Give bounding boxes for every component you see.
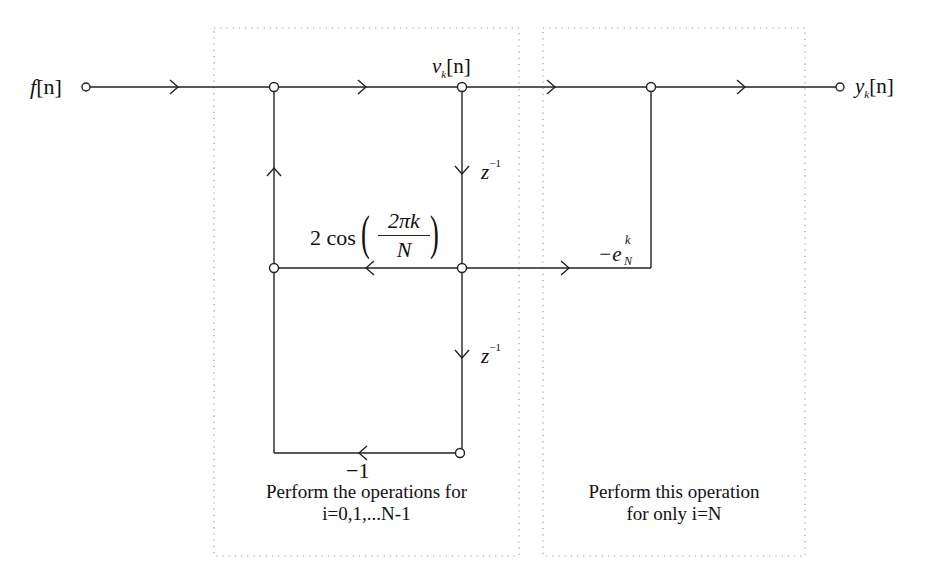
node-mid-right <box>458 264 467 273</box>
right-region-caption: Perform this operation for only i=N <box>543 481 805 525</box>
output-label-y: y <box>855 74 864 98</box>
sum-node-output <box>647 83 656 92</box>
output-label: yk[n] <box>855 74 894 100</box>
coef-prefix: 2 cos <box>310 225 356 251</box>
out-coef-sub: N <box>624 254 632 269</box>
delay1-z: z <box>481 160 489 184</box>
delay-label-2: z−1 <box>481 344 501 369</box>
out-coef-prefix: −e <box>598 242 622 267</box>
left-region-caption: Perform the operations for i=0,1,...N-1 <box>214 481 519 525</box>
node-mid-left <box>270 264 279 273</box>
node-bottom-right <box>456 449 465 458</box>
output-label-idx: [n] <box>869 74 894 98</box>
vk-node <box>458 83 467 92</box>
paren-open: ( <box>361 205 370 260</box>
input-label-idx: [n] <box>36 74 62 99</box>
input-label: f[n] <box>30 74 62 100</box>
right-caption-line2: for only i=N <box>543 503 805 525</box>
fraction-bar <box>378 235 430 236</box>
coef-numerator: 2πk <box>377 208 431 234</box>
output-node <box>836 83 844 91</box>
left-caption-line2: i=0,1,...N-1 <box>214 503 519 525</box>
delay2-z: z <box>481 344 489 368</box>
coef-denominator: N <box>377 237 431 263</box>
paren-close: ) <box>430 205 439 260</box>
input-node <box>82 83 90 91</box>
left-caption-line1: Perform the operations for <box>214 481 519 503</box>
state-label: vk[n] <box>432 54 471 80</box>
delay1-exp: −1 <box>489 157 501 169</box>
delay2-exp: −1 <box>489 341 501 353</box>
delay-label-1: z−1 <box>481 160 501 185</box>
out-coef-sup: k <box>625 233 630 248</box>
right-caption-line1: Perform this operation <box>543 481 805 503</box>
state-label-idx: [n] <box>446 54 471 78</box>
signal-flow-diagram: f[n] vk[n] yk[n] z−1 z−1 2 cos ( 2πk N )… <box>0 0 938 586</box>
state-label-v: v <box>432 54 441 78</box>
sum-node-top-left <box>270 83 279 92</box>
right-dotted-region <box>543 28 805 556</box>
